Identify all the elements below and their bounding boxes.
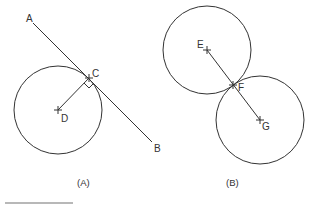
label-b: B: [154, 143, 161, 154]
right-angle-marker-icon: [84, 83, 94, 88]
cross-mark-e-icon: [203, 46, 211, 54]
caption-a: (A): [77, 177, 90, 188]
label-g: G: [262, 121, 270, 132]
footer-bar: [5, 202, 73, 204]
figure-b: E F G (B): [163, 6, 304, 188]
label-e: E: [197, 39, 204, 50]
tangent-line-ab: [33, 23, 152, 142]
label-f: F: [238, 82, 244, 93]
label-a: A: [26, 13, 33, 24]
figure-a: A B C D (A): [14, 13, 161, 188]
diagram-canvas: A B C D (A) E F G (B): [0, 0, 312, 209]
label-c: C: [92, 68, 99, 79]
caption-b: (B): [226, 177, 239, 188]
label-d: D: [61, 113, 68, 124]
